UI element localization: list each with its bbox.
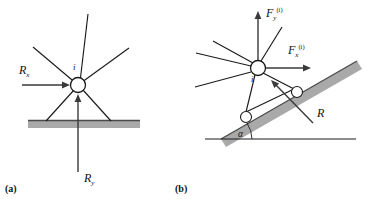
- member-leg-left-a: [46, 90, 74, 121]
- truss-members-b: [195, 27, 294, 112]
- reaction-y-label-a: Ry: [83, 171, 95, 187]
- member-lower-left-b: [195, 72, 251, 87]
- member-upper-left-b: [213, 41, 253, 63]
- force-x-label-b: Fx(i): [287, 43, 305, 59]
- force-y-arrow-b: [255, 11, 262, 68]
- reaction-x-label-a: Rx: [18, 63, 30, 79]
- node-index-label-a: i: [73, 62, 76, 72]
- figure-root: i Rx Ry (a): [0, 0, 367, 199]
- roller-upper-b: [292, 87, 303, 98]
- member-mid-left-b: [196, 53, 251, 66]
- member-upper-right-a: [78, 48, 129, 85]
- member-leg-right-a: [83, 90, 111, 121]
- truss-node-support-diagram: i Rx Ry (a): [0, 0, 367, 199]
- truss-members-a: [33, 14, 129, 121]
- panel-label-a: (a): [5, 183, 17, 195]
- reaction-x-arrow-a: [22, 82, 70, 89]
- force-y-label-b: Fy(i): [265, 6, 283, 22]
- normal-reaction-label-b: R: [316, 106, 325, 120]
- panel-b: i Fy(i) Fx(i) R α (b): [175, 6, 362, 195]
- reaction-y-arrow-a: [75, 94, 82, 172]
- ground-support-a: [28, 121, 140, 129]
- panel-a: i Rx Ry (a): [5, 14, 140, 195]
- member-upper-mid-a: [80, 14, 88, 82]
- member-upper-left-a: [33, 47, 78, 85]
- member-upper-mid-b: [261, 27, 282, 61]
- node-circle-a: [71, 78, 86, 93]
- roller-lower-b: [241, 112, 252, 123]
- panel-label-b: (b): [175, 183, 187, 195]
